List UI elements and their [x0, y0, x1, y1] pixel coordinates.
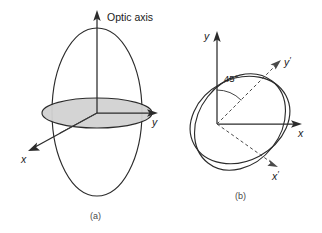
panel-a-caption: (a): [90, 211, 101, 221]
panel-a-x-axis-arrowhead: [28, 142, 40, 151]
panel-b-x-prime-axis-label: x′: [271, 169, 279, 182]
panel-b-angle-label: 45°: [224, 73, 239, 84]
panel-b-x-axis-label: x: [297, 127, 304, 139]
panel-b-y-prime-axis-arrowhead: [271, 60, 282, 70]
panel-a-x-axis-label: x: [20, 153, 27, 165]
panel-b-y-prime-mark: ′: [289, 55, 291, 65]
panel-b-x-prime-axis-arrowhead: [267, 160, 278, 168]
panel-b-y-prime-axis-label: y′: [283, 55, 291, 68]
panel-b-group: [175, 31, 305, 188]
optic-axis-label: Optic axis: [107, 11, 153, 23]
panel-a-y-axis-label: y: [151, 116, 158, 128]
panel-b-x-prime-mark: ′: [277, 169, 279, 179]
panel-b-y-axis-label: y: [203, 30, 210, 42]
figure-svg: Optic axis y x (a) y x y′ x′ 45° (b): [0, 0, 322, 233]
panel-b-ellipse-2: [176, 56, 305, 188]
figure-container: Optic axis y x (a) y x y′ x′ 45° (b): [0, 0, 322, 233]
panel-b-angle-arc: [217, 90, 241, 100]
panel-b-ellipse-1: [175, 59, 305, 180]
panel-b-caption: (b): [235, 191, 246, 201]
panel-a-group: [28, 10, 158, 196]
